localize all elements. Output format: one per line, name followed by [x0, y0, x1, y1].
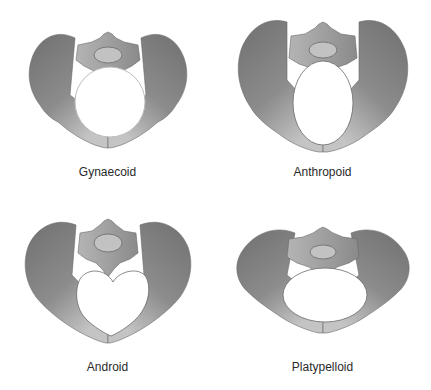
gynaecoid-label: Gynaecoid — [0, 165, 215, 179]
gynaecoid-panel: Gynaecoid — [0, 0, 215, 195]
anthropoid-panel: Anthropoid — [215, 0, 430, 195]
anthropoid-label: Anthropoid — [215, 165, 430, 179]
platypelloid-panel: Platypelloid — [215, 195, 430, 390]
platypelloid-label: Platypelloid — [215, 360, 430, 374]
android-panel: Android — [0, 195, 215, 390]
android-label: Android — [0, 360, 215, 374]
